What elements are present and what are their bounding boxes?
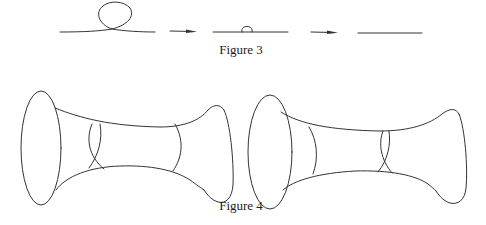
- fig3-small-loop-curve: [213, 27, 288, 33]
- fig3-large-loop-curve: [60, 2, 155, 32]
- figures-canvas: [0, 0, 486, 225]
- fig4-left-surface: [21, 91, 233, 205]
- figure-3-drawing: [60, 2, 422, 34]
- figure-4-caption: Figure 4: [219, 198, 263, 214]
- fig3-arrow-1: [170, 30, 197, 34]
- right-surface-end-ellipse: [248, 95, 292, 209]
- fig4-right-surface: [248, 95, 467, 209]
- fig3-arrow-2: [311, 31, 338, 35]
- figure-3-caption: Figure 3: [219, 42, 263, 58]
